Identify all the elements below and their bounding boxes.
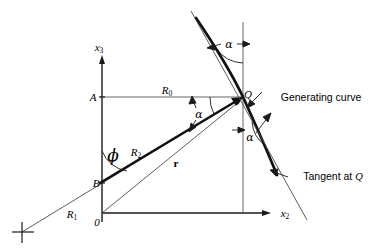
alpha-lower-angle-label: α bbox=[246, 132, 253, 143]
r0-label: R0 bbox=[162, 85, 172, 96]
point-a-label: A bbox=[90, 92, 97, 103]
r-vector-line bbox=[102, 100, 241, 213]
r2-vector-line bbox=[100, 100, 238, 183]
x2-axis-label: x2 bbox=[281, 208, 290, 219]
alpha-left-leader-down-head bbox=[189, 123, 196, 132]
point-b-label: B bbox=[93, 178, 100, 189]
alpha-top-angle-label: α bbox=[225, 39, 232, 50]
x3-axis-arrowhead bbox=[99, 55, 105, 64]
angle-arc-group bbox=[102, 48, 266, 171]
r-vector-label: r bbox=[174, 158, 179, 169]
axis-group bbox=[99, 55, 271, 222]
alpha-top-leader-right-head bbox=[243, 41, 250, 47]
generating-curve-leader-head bbox=[247, 100, 255, 108]
origin-label: 0 bbox=[94, 217, 100, 228]
phi-angle-label: ϕ bbox=[107, 147, 119, 164]
r2-label: R2 bbox=[131, 147, 141, 158]
x2-axis-arrowhead bbox=[262, 210, 271, 216]
tangent-at-q-annotation: Tangent at Q bbox=[303, 171, 363, 183]
alpha-left-angle-arc bbox=[210, 97, 214, 114]
alpha-lower-leader-inner-head bbox=[238, 127, 245, 133]
point-q-label: Q bbox=[244, 89, 252, 100]
tangent-line-at-q bbox=[191, 11, 307, 220]
alpha-top-leader-left-head bbox=[207, 44, 215, 50]
alpha-lower-leader-head bbox=[263, 113, 271, 122]
generating-curve-annotation: Generating curve bbox=[281, 92, 362, 103]
alpha-left-angle-label: α bbox=[195, 109, 202, 120]
figure-container: x3 x2 A B Q 0 R0 R1 R2 r ϕ α α α Generat… bbox=[0, 0, 382, 252]
construction-lines bbox=[100, 22, 243, 213]
r1-label: R1 bbox=[67, 209, 77, 220]
r-vector-group bbox=[102, 97, 243, 213]
x3-axis-label: x3 bbox=[95, 42, 104, 53]
diagram-canvas bbox=[0, 0, 382, 252]
tangent-at-q-point-label: Q bbox=[355, 171, 363, 182]
